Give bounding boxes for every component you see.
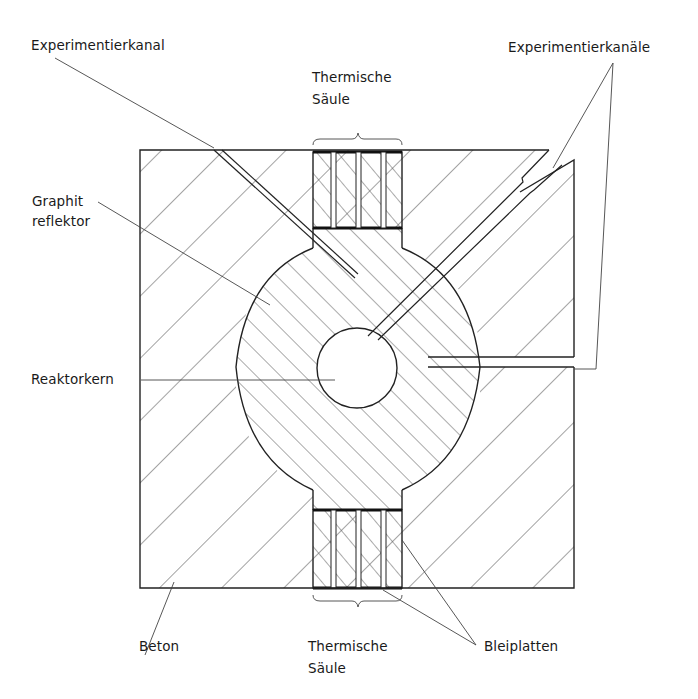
label-thermische-saeule-top-1: Thermische: [311, 69, 392, 85]
lead-plate: [381, 510, 386, 588]
reactor-core: [317, 328, 397, 408]
label-bleiplatten: Bleiplatten: [484, 638, 558, 654]
leader-bleiplatte-2: [383, 590, 476, 645]
thermal-column-top: [313, 133, 402, 228]
leader-experimentierkanal: [55, 58, 214, 148]
label-reaktorkern: Reaktorkern: [31, 371, 114, 387]
brace-top: [313, 133, 402, 145]
lead-plate: [331, 152, 336, 228]
label-graphit-1: Graphit: [32, 193, 83, 209]
lead-plate: [381, 152, 386, 228]
leader-kanal-1: [553, 63, 613, 168]
thermal-column-bottom: [313, 510, 402, 607]
lead-plate: [356, 510, 361, 588]
brace-bottom: [313, 595, 402, 607]
label-experimentierkanal: Experimentierkanal: [31, 37, 165, 53]
label-thermische-saeule-bottom-1: Thermische: [307, 638, 388, 654]
label-graphit-2: reflektor: [32, 213, 91, 229]
lead-plate: [356, 152, 361, 228]
label-thermische-saeule-top-2: Säule: [312, 91, 350, 107]
reactor-cross-section-diagram: Experimentierkanal Experimentierkanäle T…: [0, 0, 698, 699]
leader-kanal-2: [596, 63, 613, 369]
label-experimentierkanaele: Experimentierkanäle: [508, 39, 650, 55]
label-thermische-saeule-bottom-2: Säule: [308, 660, 346, 676]
lead-plate: [331, 510, 336, 588]
label-beton: Beton: [139, 638, 179, 654]
